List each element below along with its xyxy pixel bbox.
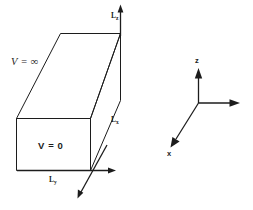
box-diagonal-axis-line — [81, 145, 107, 192]
coordinate-triad — [171, 68, 241, 148]
axis-label-z: z — [195, 57, 199, 65]
triad-z-axis-arrowhead — [195, 68, 202, 79]
box-horizontal-axis-arrowhead — [108, 168, 116, 174]
box-diagonal-axis-arrowhead — [78, 190, 84, 199]
box-vertical-axis-arrowhead — [118, 5, 124, 13]
edge-label-lx: Lx — [111, 116, 119, 124]
potential-outside-label: V = ∞ — [11, 57, 39, 68]
triad-y-axis-arrowhead — [230, 99, 241, 106]
edge-label-lx-subscript: x — [116, 119, 119, 125]
edge-label-ly-subscript: y — [54, 179, 57, 185]
triad-x-axis-arrowhead — [171, 137, 180, 148]
edge-label-ly: Ly — [49, 176, 57, 184]
figure-drawing — [0, 0, 253, 210]
edge-label-lz: Lz — [111, 12, 118, 20]
potential-inside-label: V = 0 — [38, 141, 63, 151]
box-top-face — [17, 34, 121, 119]
box-right-face — [91, 34, 121, 171]
figure-canvas: V = ∞ V = 0 Lz Lx Ly z x — [0, 0, 253, 210]
triad-x-axis-line — [176, 103, 199, 139]
axis-label-x: x — [167, 150, 171, 158]
